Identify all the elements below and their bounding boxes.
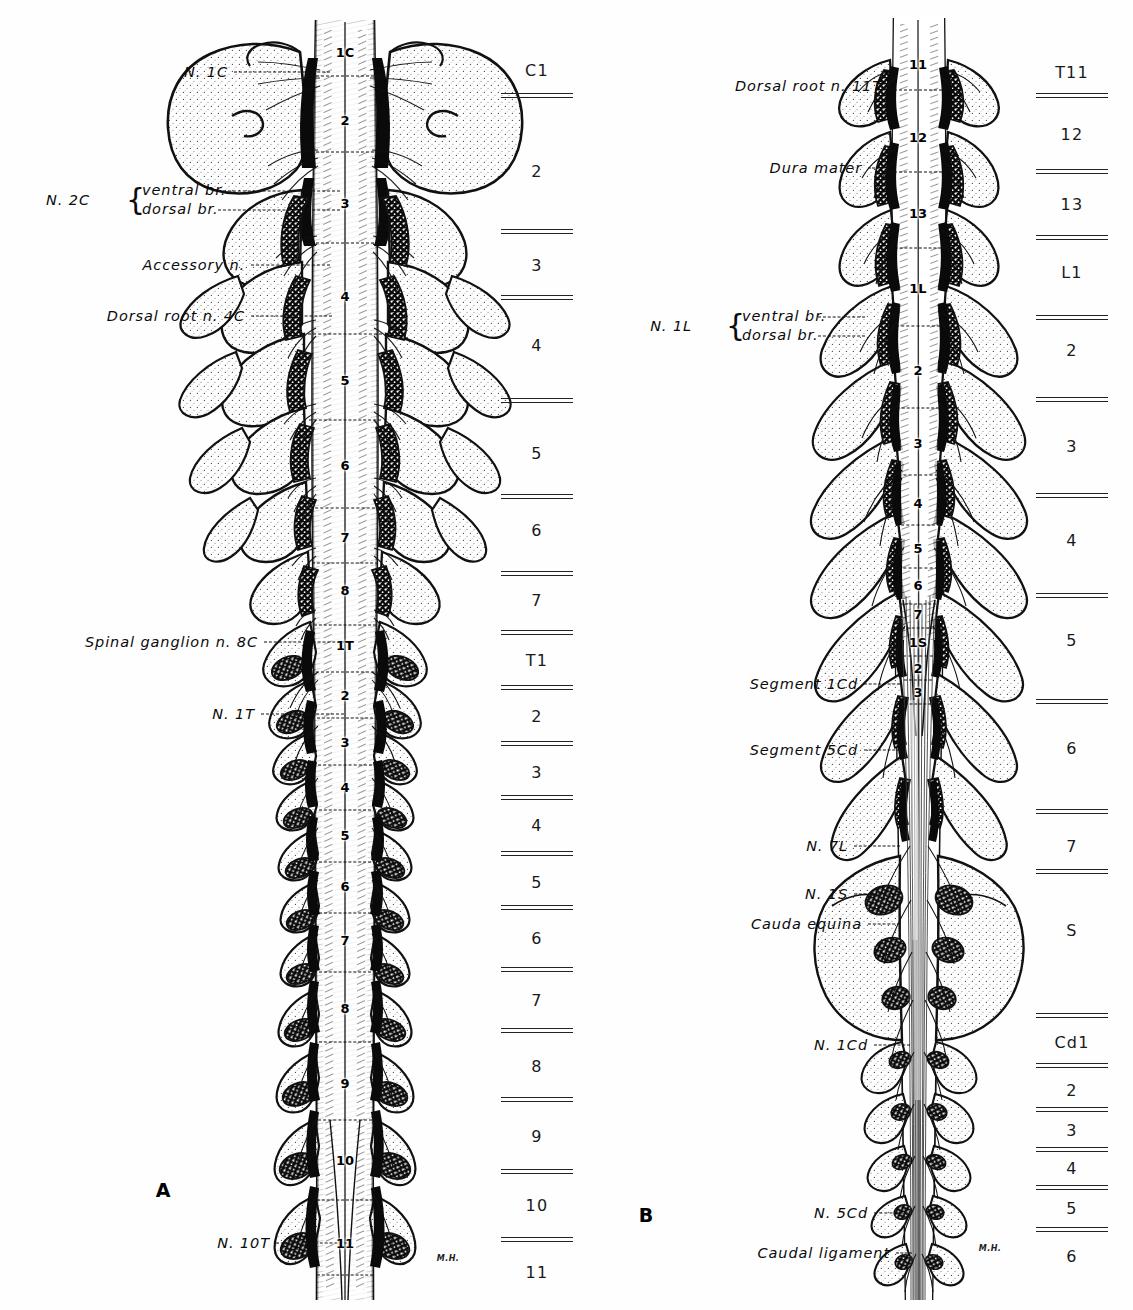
scale-divider (501, 398, 573, 404)
cord-segment-tick (318, 765, 372, 766)
cord-segment-2: 2 (340, 113, 349, 128)
cord-segment-tick (306, 76, 384, 77)
scale-level-t1: T1 (526, 651, 548, 670)
label-n-1s: N. 1S (600, 886, 848, 902)
scale-level-c1: C1 (525, 61, 549, 80)
cord-segment-tick (318, 1120, 372, 1121)
cord-segment-8: 8 (340, 583, 349, 598)
scale-divider (501, 1028, 573, 1034)
leader-line-n-7l (854, 846, 900, 847)
scale-level-2: 2 (531, 162, 542, 181)
cord-segment-tick (309, 420, 381, 421)
label-spinal-ganglion-n-8c: Spinal ganglion n. 8C (0, 634, 258, 650)
cord-segment-tick (306, 243, 384, 244)
cord-segment-8: 8 (340, 1001, 349, 1016)
cord-segment-tick (312, 563, 378, 564)
label-caudal-ligament: Caudal ligament (600, 1245, 890, 1261)
label-n-1l-ventral-br: ventral br. (742, 307, 826, 326)
scale-divider (501, 93, 573, 99)
scale-level-3: 3 (531, 256, 542, 275)
label-n-1l-dorsal-br: dorsal br. (742, 326, 826, 345)
leader-line-segment-1cd (864, 684, 900, 685)
cord-segment-tick (904, 680, 932, 681)
scale-divider (1036, 869, 1108, 875)
scale-level-2: 2 (1066, 1081, 1077, 1100)
cord-segment-5: 5 (340, 828, 349, 843)
label-n-2c-ventral-br: ventral br. (142, 181, 226, 200)
cord-segment-9: 9 (340, 1076, 349, 1091)
leader-line-n-1s (854, 894, 900, 895)
cord-segment-tick (902, 628, 934, 629)
cord-segment-2: 2 (913, 363, 922, 378)
cord-segment-1s: 1S (909, 635, 927, 650)
panel-a: N. 1CAccessory n.Dorsal root n. 4CSpinal… (0, 0, 600, 1310)
scale-divider (501, 741, 573, 747)
scale-divider (1036, 493, 1108, 499)
scale-divider (1036, 809, 1108, 815)
scale-level-6: 6 (531, 929, 542, 948)
scale-divider (1036, 169, 1108, 175)
cord-segment-3: 3 (913, 436, 922, 451)
cord-segment-2: 2 (913, 661, 922, 676)
scale-divider (501, 1237, 573, 1243)
brace-rows-n-1l: ventral br.dorsal br. (742, 307, 826, 345)
leader-line-dorsal-root-n-4c (251, 316, 332, 317)
label-dura-mater: Dura mater (600, 160, 862, 176)
scale-divider (501, 571, 573, 577)
leader-line-accessory-n (251, 265, 330, 266)
panel-a-anatomy-drawing (0, 0, 600, 1310)
scale-level-12: 12 (1061, 125, 1084, 144)
scale-level-l1: L1 (1061, 263, 1083, 282)
scale-divider (501, 630, 573, 636)
scale-level-t11: T11 (1055, 63, 1089, 82)
cord-segment-tick (310, 508, 380, 509)
cord-segment-tick (893, 475, 943, 476)
cord-segment-tick (308, 334, 382, 335)
label-accessory-n: Accessory n. (0, 257, 245, 273)
scale-divider (1036, 235, 1108, 241)
scale-level-2: 2 (531, 707, 542, 726)
leader-line-n-1cd (874, 1045, 910, 1046)
anatomical-figure: N. 1CAccessory n.Dorsal root n. 4CSpinal… (0, 0, 1133, 1310)
scale-level-4: 4 (531, 816, 542, 835)
scale-divider (501, 795, 573, 801)
leader-line-n-5cd (874, 1213, 908, 1214)
leader-line-caudal-ligament (896, 1253, 912, 1254)
label-n-1cd: N. 1Cd (600, 1037, 868, 1053)
cord-segment-tick (316, 672, 374, 673)
label-segment-1cd: Segment 1Cd (600, 676, 858, 692)
scale-divider (501, 1169, 573, 1175)
cord-segment-tick (898, 568, 938, 569)
scale-level-7: 7 (1066, 837, 1077, 856)
cord-segment-tick (903, 656, 933, 657)
cord-segment-tick (317, 1200, 373, 1201)
label-segment-5cd: Segment 5Cd (600, 742, 858, 758)
scale-level-3: 3 (1066, 1121, 1077, 1140)
cord-segment-tick (319, 913, 371, 914)
cord-segment-7: 7 (340, 933, 349, 948)
scale-divider (501, 295, 573, 301)
leader-line-n-1t (261, 714, 344, 715)
cord-segment-tick (319, 862, 371, 863)
scale-level-9: 9 (531, 1127, 542, 1146)
leader-line-segment-5cd (864, 750, 900, 751)
cord-segment-tick (892, 408, 944, 409)
label-n-1l: N. 1L (600, 318, 692, 334)
label-n-7l: N. 7L (600, 838, 848, 854)
cord-segment-tick (896, 525, 940, 526)
cord-segment-11: 11 (336, 1236, 354, 1251)
panel-b-artist-signature: M.H. (979, 1244, 1001, 1253)
scale-divider (1036, 315, 1108, 321)
cord-segment-tick (905, 704, 931, 705)
scale-level-5: 5 (531, 444, 542, 463)
panel-b-letter: B (639, 1204, 653, 1226)
scale-level-6: 6 (531, 521, 542, 540)
scale-divider (501, 967, 573, 973)
label-cauda-equina: Cauda equina (600, 916, 862, 932)
cord-segment-3: 3 (340, 196, 349, 211)
scale-divider (501, 851, 573, 857)
cord-segment-4: 4 (913, 496, 922, 511)
cord-segment-tick (306, 152, 384, 153)
scale-level-s: S (1066, 921, 1077, 940)
scale-divider (1036, 1013, 1108, 1019)
